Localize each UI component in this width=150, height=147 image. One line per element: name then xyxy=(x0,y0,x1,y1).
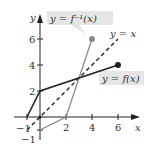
finv-label-pointer xyxy=(70,25,86,34)
inverse-function-curve xyxy=(40,39,92,130)
x-tick-label-2: 2 xyxy=(63,122,69,133)
x-axis-arrow-icon xyxy=(131,114,140,120)
identity-line-label: y = x xyxy=(109,28,136,39)
y-axis-arrow-icon xyxy=(37,14,43,23)
function-label: y = f(x) xyxy=(101,73,140,84)
inverse-endpoint-dot xyxy=(89,36,95,42)
y-tick-label-neg1: −1 xyxy=(21,134,36,145)
y-tick-label-2: 2 xyxy=(29,86,35,97)
x-tick-label-4: 4 xyxy=(89,122,95,133)
function-inverse-plot: −1 2 4 6 x −1 2 4 6 y y = f⁻¹(x) y = x y… xyxy=(0,0,150,147)
x-axis-label: x xyxy=(135,122,141,133)
y-tick-label-4: 4 xyxy=(29,60,35,71)
x-tick-label-neg1: −1 xyxy=(16,123,31,134)
x-tick-label-6: 6 xyxy=(115,122,121,133)
y-axis-label: y xyxy=(29,12,36,23)
inverse-function-label: y = f⁻¹(x) xyxy=(49,13,97,24)
function-endpoint-dot xyxy=(115,62,121,68)
origin-dot xyxy=(38,115,41,118)
y-tick-label-6: 6 xyxy=(29,34,35,45)
